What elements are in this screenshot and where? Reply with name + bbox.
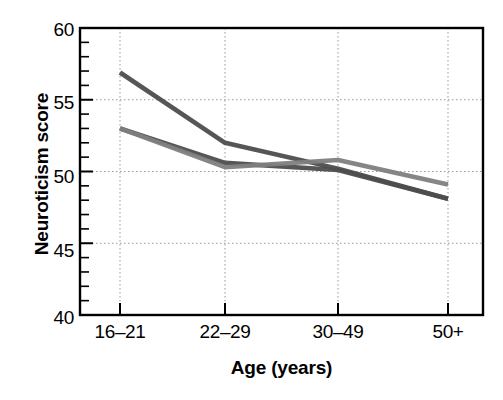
plot-area [0, 0, 503, 400]
data-series-group [120, 72, 448, 198]
data-line-series-1 [120, 72, 448, 198]
grid-lines [80, 28, 483, 315]
chart-figure: Neuroticism score 60 55 50 45 40 16–21 2… [0, 0, 503, 400]
